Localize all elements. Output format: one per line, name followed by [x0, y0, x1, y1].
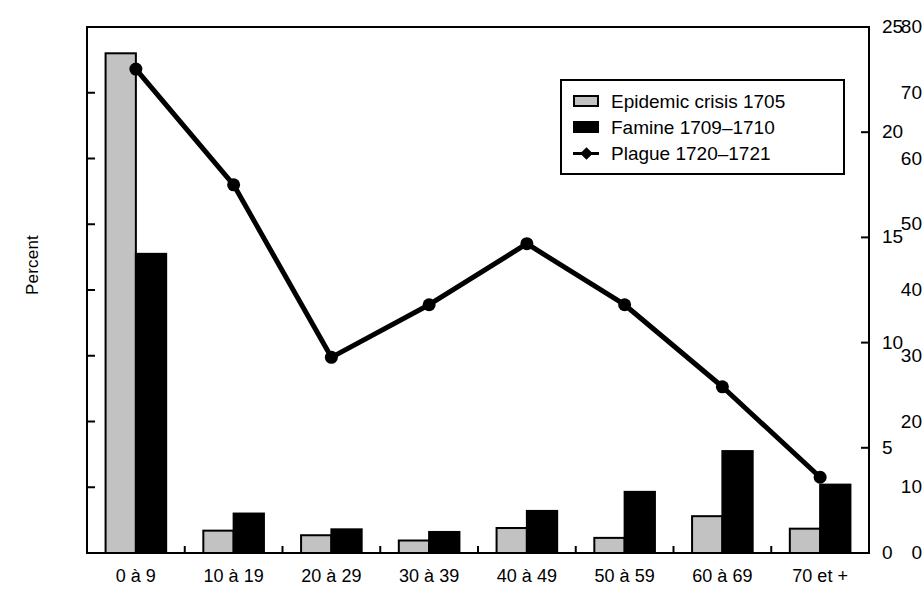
black-bar-swatch [573, 121, 599, 133]
line-data-point [716, 380, 729, 393]
bar [234, 514, 264, 553]
line-data-point [618, 298, 631, 311]
legend-item[interactable]: Plague 1720–1721 [573, 140, 829, 166]
legend-item[interactable]: Famine 1709–1710 [573, 114, 829, 140]
bar [203, 531, 233, 553]
line-data-point [423, 298, 436, 311]
bar [722, 451, 752, 553]
chart-legend: Epidemic crisis 1705Famine 1709–1710Plag… [560, 79, 845, 175]
bar [399, 541, 429, 553]
legend-item-label: Epidemic crisis 1705 [611, 92, 785, 111]
bar [106, 53, 136, 553]
bar [692, 516, 722, 553]
bar [429, 532, 459, 553]
line-data-point [325, 351, 338, 364]
gray-bar-swatch [573, 95, 599, 107]
bar [594, 538, 624, 553]
line-data-point [129, 63, 142, 76]
legend-item-label: Plague 1720–1721 [611, 144, 771, 163]
line-data-point [520, 237, 533, 250]
bar [136, 254, 166, 553]
bar [820, 485, 850, 553]
line-data-point [227, 178, 240, 191]
bar [625, 492, 655, 553]
line-marker-swatch [573, 147, 599, 159]
bar [331, 529, 361, 553]
bar [497, 528, 527, 553]
legend-item-label: Famine 1709–1710 [611, 118, 775, 137]
bar [790, 529, 820, 553]
bar [527, 511, 557, 553]
legend-item[interactable]: Epidemic crisis 1705 [573, 88, 829, 114]
line-data-point [814, 471, 827, 484]
bar [301, 535, 331, 553]
chart-container: Percent 01020304050607080 0510152025 0 à… [0, 0, 922, 602]
